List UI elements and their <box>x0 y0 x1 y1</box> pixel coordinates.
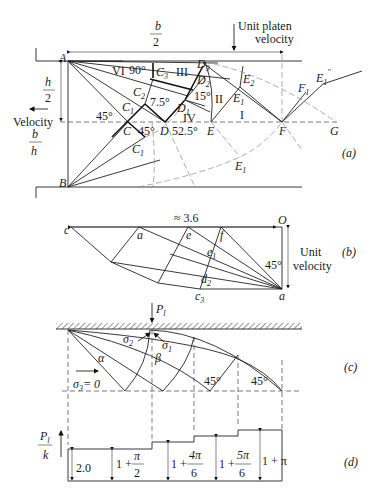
point-E: E <box>206 124 215 138</box>
sigma2-label: σ2 <box>123 332 133 348</box>
dim-h: h <box>45 75 51 89</box>
point-c3: c3 <box>195 289 204 305</box>
point-a-top: a <box>137 228 143 242</box>
step-4-value: 1 + <box>219 457 235 471</box>
point-C: C <box>123 124 132 138</box>
svg-text:6: 6 <box>191 466 197 480</box>
point-e: e <box>186 228 192 242</box>
point-a-bottom: a <box>279 289 285 303</box>
region-III: III <box>176 65 188 79</box>
point-O: O <box>278 213 287 227</box>
point-A: A <box>58 51 67 65</box>
beta-label: β <box>154 351 161 365</box>
load-label: Pl <box>155 302 166 318</box>
angle-45-center: 45° <box>138 124 155 138</box>
point-e1: e1 <box>207 245 216 261</box>
svg-text:2: 2 <box>45 91 51 105</box>
point-E1: E1 <box>232 91 244 107</box>
point-c: c <box>64 223 70 237</box>
svg-text:π: π <box>134 449 141 463</box>
angle-45: 45° <box>265 258 282 272</box>
angle-15: 15° <box>194 89 211 103</box>
panel-b-label: (b) <box>342 245 356 259</box>
region-I: I <box>240 108 244 122</box>
ratio-b: b <box>32 127 38 141</box>
point-F1: F1 <box>297 81 309 97</box>
dim-b: b <box>155 19 161 33</box>
point-C2: C2 <box>133 85 145 101</box>
region-VI: VI <box>112 64 125 78</box>
step-1-value: 2.0 <box>76 461 91 475</box>
panel-c: Pl σ2 σ1 α β σ3= 0 45° 45° (c) <box>56 302 357 445</box>
slipline-field-figure: b 2 h 2 Velocity b h Unit platen velocit… <box>0 0 379 501</box>
point-E1-prime: E1'' <box>315 68 331 87</box>
point-C1-lower: C1 <box>132 142 144 158</box>
yaxis-P: Pl <box>39 429 50 445</box>
angle-45-a: 45° <box>204 374 221 388</box>
point-G: G <box>330 124 339 138</box>
point-D2: D2 <box>196 73 210 89</box>
sigma1-label: σ1 <box>162 338 172 354</box>
hatched-platen <box>56 323 302 329</box>
region-II: II <box>215 92 223 106</box>
point-B: B <box>59 176 67 190</box>
svg-text:Unit: Unit <box>300 245 322 259</box>
panel-a-label: (a) <box>342 146 356 160</box>
length-label: ≈ 3.6 <box>174 211 199 225</box>
point-E2: E2 <box>242 72 254 88</box>
step-5-value: 1 + π <box>262 454 287 468</box>
yaxis-k: k <box>43 448 49 462</box>
pressure-steps <box>68 430 282 481</box>
svg-text:2: 2 <box>153 35 159 49</box>
point-F: F <box>278 124 287 138</box>
svg-text:5π: 5π <box>237 448 250 462</box>
point-D: D <box>159 124 169 138</box>
angle-7-5: 7.5° <box>150 95 170 109</box>
angle-45-left: 45° <box>96 109 113 123</box>
point-D3: D3 <box>196 57 210 73</box>
angle-52-5: 52.5° <box>172 124 198 138</box>
point-C3: C3 <box>156 65 168 81</box>
point-C1: C1 <box>122 100 134 116</box>
svg-text:h: h <box>31 144 37 158</box>
svg-text:4π: 4π <box>189 448 202 462</box>
sigma3-label: σ3= 0 <box>73 377 100 393</box>
step-3-value: 1 + <box>171 457 187 471</box>
region-IV: IV <box>183 111 196 125</box>
panel-d: Pl k 2.0 1 + π 2 1 + 4π 6 1 + 5π 6 1 + π… <box>38 429 358 481</box>
point-d2: d2 <box>201 272 211 288</box>
point-E1-lower: E1 <box>234 159 246 175</box>
panel-a: b 2 h 2 Velocity b h Unit platen velocit… <box>13 19 362 198</box>
svg-text:6: 6 <box>239 466 245 480</box>
svg-text:velocity: velocity <box>293 259 332 273</box>
svg-text:Unit platen: Unit platen <box>238 19 292 33</box>
panel-d-label: (d) <box>344 455 358 469</box>
svg-text:2: 2 <box>134 466 140 480</box>
alpha-label: α <box>98 351 105 365</box>
angle-45-b: 45° <box>251 374 268 388</box>
panel-b: ≈ 3.6 O c a e f e1 d2 c3 a 45° Unit velo… <box>64 211 356 305</box>
step-2-value: 1 + <box>116 457 132 471</box>
svg-text:velocity: velocity <box>255 32 294 46</box>
angle-90: 90° <box>129 63 146 77</box>
panel-c-label: (c) <box>344 360 357 374</box>
